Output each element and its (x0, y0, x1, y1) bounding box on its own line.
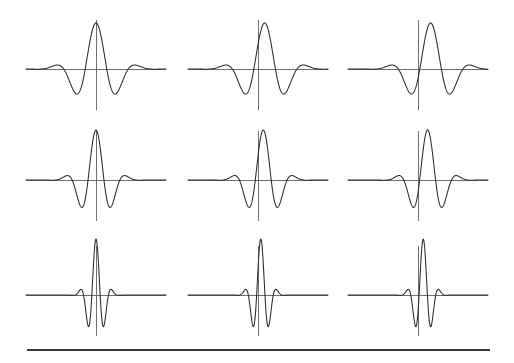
wavelet-r2c1-panel (26, 130, 166, 221)
panels-layer (26, 20, 488, 336)
wavelet-r1c2-panel (188, 20, 328, 110)
wavelet-r3c1-panel (26, 239, 166, 336)
wavelet-r3c3-panel (348, 239, 488, 336)
figure-root (0, 0, 514, 363)
wavelet-r1c1-panel (26, 20, 166, 110)
wavelet-r2c3-panel (348, 130, 488, 221)
wavelet-r2c2-panel (188, 130, 328, 221)
wavelet-grid (0, 0, 514, 363)
wavelet-r1c3-panel (348, 20, 488, 110)
wavelet-r3c2-panel (188, 239, 328, 336)
